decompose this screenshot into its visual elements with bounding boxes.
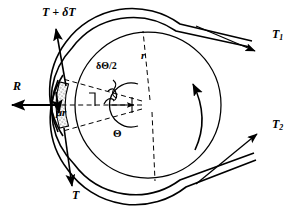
rotation-arrow (193, 84, 202, 150)
belt-friction-diagram-svg (0, 0, 300, 214)
label-delta-theta-half: δΘ/2 (96, 61, 117, 71)
label-t1: T1 (272, 28, 283, 42)
force-arrow-t1 (196, 26, 255, 51)
label-t: T (72, 189, 79, 201)
label-r-radius: r (141, 50, 145, 61)
label-t1-subscript: 1 (279, 33, 283, 42)
force-arrow-t (64, 128, 72, 186)
label-mu-r: μr (56, 107, 66, 118)
force-arrow-t2 (196, 134, 257, 184)
label-r: R (13, 80, 21, 92)
label-theta: Θ (113, 128, 122, 139)
label-t2-subscript: 2 (279, 123, 283, 132)
label-t2: T2 (272, 118, 283, 132)
label-t-plus-delta-t: T + δT (42, 6, 76, 18)
angle-marks (89, 80, 138, 127)
diagram-canvas: T + δT T T1 T2 R μr r δΘ/2 Θ (0, 0, 300, 214)
